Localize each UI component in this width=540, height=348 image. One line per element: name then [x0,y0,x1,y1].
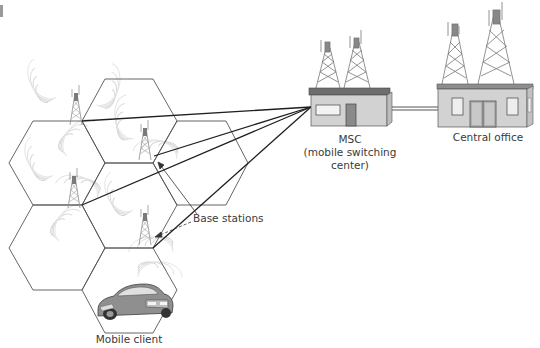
central-office-window [507,98,518,115]
msc-window [316,105,340,115]
car-icon [98,284,173,320]
msc-central-link [392,107,438,110]
base-stations-callout [155,162,197,237]
central-office-window [452,98,463,115]
base-stations-label: Base stations [193,212,264,225]
cell-hexagon [153,121,248,205]
diagram-canvas: MSC (mobile switching center) Central of… [0,0,540,348]
cell-hexagon [82,79,177,163]
cell-hexagon [9,205,105,290]
links-to-msc [0,0,311,248]
msc-label-line1: MSC [300,133,400,146]
cell-hexagon [82,163,177,248]
msc-label-line3: center) [300,159,400,172]
msc-building [309,30,392,126]
central-office-label: Central office [438,131,538,144]
base-station-tower-icon [70,85,82,125]
cell-hexagon [9,121,105,205]
mobile-client-label: Mobile client [84,333,174,346]
msc-door [346,104,356,126]
base-station-tower-icon [68,168,80,208]
msc-label: MSC (mobile switching center) [300,133,400,172]
msc-label-line2: (mobile switching [300,146,400,159]
central-office-building [437,2,533,127]
base-station-towers [68,85,151,245]
